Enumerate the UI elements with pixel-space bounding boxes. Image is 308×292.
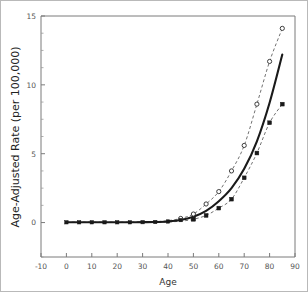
age-adjusted-rate-line-chart: 051015 -100102030405060708090 Age Age-Ad… bbox=[1, 1, 308, 292]
lower-confidence-line bbox=[66, 104, 282, 222]
x-tick-label: 80 bbox=[265, 262, 275, 271]
x-tick-label: 10 bbox=[87, 262, 97, 271]
observed-rate-marker bbox=[179, 218, 182, 221]
x-tick-label: 30 bbox=[138, 262, 148, 271]
chart-figure: 051015 -100102030405060708090 Age Age-Ad… bbox=[0, 0, 308, 292]
observed-rate-marker bbox=[192, 217, 195, 220]
y-tick-label: 15 bbox=[26, 12, 36, 21]
x-tick-label: 50 bbox=[189, 262, 199, 271]
y-axis-ticks: 051015 bbox=[26, 12, 45, 257]
lower-ci-marker bbox=[217, 206, 221, 210]
y-tick-label: 0 bbox=[31, 218, 36, 227]
observed-rate-marker bbox=[154, 220, 157, 223]
lower-ci-marker bbox=[268, 121, 272, 125]
observed-rate-marker bbox=[141, 220, 144, 223]
y-tick-label: 5 bbox=[31, 150, 36, 159]
lower-ci-marker bbox=[280, 102, 284, 106]
upper-ci-marker bbox=[204, 202, 208, 206]
observed-rate-marker bbox=[77, 221, 80, 224]
y-tick-label: 10 bbox=[26, 81, 36, 90]
upper-ci-marker bbox=[255, 102, 259, 106]
x-tick-label: 70 bbox=[239, 262, 249, 271]
observed-rate-marker bbox=[103, 221, 106, 224]
x-tick-label: 60 bbox=[214, 262, 224, 271]
lower-ci-marker bbox=[204, 214, 208, 218]
lower-ci-marker bbox=[242, 176, 246, 180]
x-tick-label: 20 bbox=[112, 262, 122, 271]
observed-rate-marker bbox=[128, 221, 131, 224]
upper-ci-marker bbox=[229, 169, 233, 173]
observed-rate-marker bbox=[90, 221, 93, 224]
observed-rate-marker bbox=[116, 221, 119, 224]
observed-rate-marker bbox=[166, 220, 169, 223]
lower-ci-marker bbox=[230, 197, 234, 201]
y-axis-title: Age-Adjusted Rate (per 100,000) bbox=[9, 46, 22, 227]
upper-ci-marker bbox=[217, 189, 221, 193]
x-tick-label: 0 bbox=[64, 262, 69, 271]
x-axis-ticks: -100102030405060708090 bbox=[35, 253, 300, 271]
upper-ci-marker bbox=[268, 59, 272, 63]
upper-ci-marker bbox=[280, 26, 284, 30]
x-tick-label: 40 bbox=[163, 262, 173, 271]
upper-ci-marker bbox=[242, 143, 246, 147]
observed-rate-marker bbox=[65, 221, 68, 224]
upper-ci-marker bbox=[191, 212, 195, 216]
upper-confidence-line bbox=[66, 28, 282, 222]
x-tick-label: 90 bbox=[290, 262, 300, 271]
fitted-rate-line bbox=[66, 55, 282, 223]
lower-ci-marker bbox=[255, 151, 259, 155]
x-tick-label: -10 bbox=[35, 262, 47, 271]
x-axis-title: Age bbox=[159, 277, 177, 287]
